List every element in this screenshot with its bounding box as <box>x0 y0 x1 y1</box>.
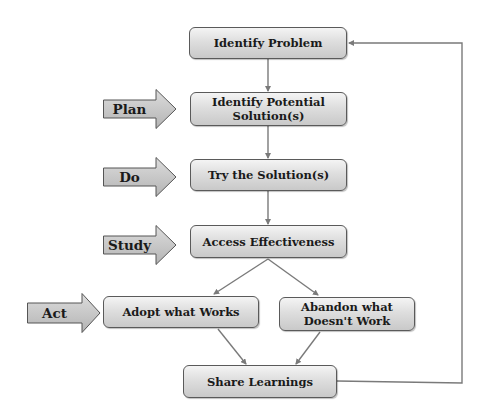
edge-abandon-to-share <box>296 332 320 364</box>
phase-arrow-do: Do <box>103 157 178 197</box>
node-label: Identify Problem <box>214 36 323 50</box>
node-abandon: Abandon what Doesn't Work <box>279 297 415 331</box>
node-label: Access Effectiveness <box>202 235 334 249</box>
edge-access-to-adopt <box>214 259 268 294</box>
node-access-effectiveness: Access Effectiveness <box>190 225 347 258</box>
phase-label: Plan <box>103 100 156 118</box>
node-try-solutions: Try the Solution(s) <box>190 159 347 191</box>
node-adopt: Adopt what Works <box>103 296 259 328</box>
phase-arrow-act: Act <box>27 293 102 333</box>
edge-adopt-to-share <box>218 329 246 364</box>
edge-access-to-abandon <box>268 259 318 295</box>
node-label: Adopt what Works <box>122 305 239 319</box>
phase-arrow-plan: Plan <box>103 89 178 129</box>
connectors <box>0 0 486 419</box>
phase-label: Study <box>103 236 156 254</box>
node-identify-problem: Identify Problem <box>189 27 347 59</box>
phase-label: Act <box>27 303 82 323</box>
edge-feedback-loop <box>337 43 462 383</box>
node-label: Abandon what Doesn't Work <box>301 300 393 328</box>
pdsa-flowchart: Identify Problem Identify Potential Solu… <box>0 0 486 419</box>
phase-arrow-study: Study <box>103 225 178 265</box>
node-share: Share Learnings <box>183 365 337 398</box>
node-label: Share Learnings <box>207 375 313 389</box>
node-label: Try the Solution(s) <box>208 168 329 182</box>
node-label: Identify Potential Solution(s) <box>212 95 325 123</box>
phase-label: Do <box>103 168 156 186</box>
node-identify-solutions: Identify Potential Solution(s) <box>190 92 347 126</box>
